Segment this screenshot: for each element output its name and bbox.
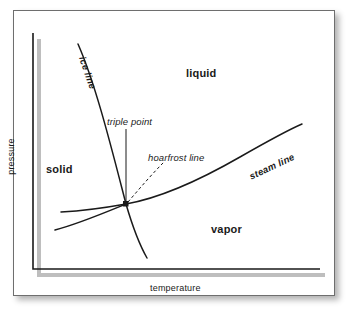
region-label-liquid: liquid [186, 68, 217, 79]
annotation-hoarfrost-line: hoarfrost line [148, 153, 204, 163]
region-label-solid: solid [46, 164, 73, 175]
plot-axes [33, 33, 320, 269]
region-label-vapor: vapor [211, 224, 242, 235]
y-axis-label: pressure [7, 138, 16, 175]
x-axis-label: temperature [150, 284, 201, 293]
annotation-triple-point: triple point [107, 117, 152, 127]
lower-branch-curve [55, 204, 126, 230]
phase-diagram-figure: solid liquid vapor ice line steam line t… [0, 0, 352, 314]
triple-point-marker [123, 201, 129, 207]
